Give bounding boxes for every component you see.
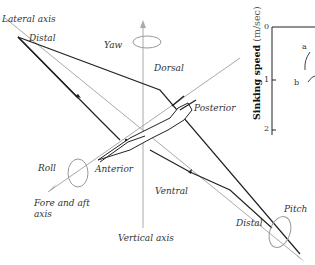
roll-rotation-icon bbox=[68, 159, 88, 187]
label-roll: Roll bbox=[38, 163, 56, 173]
tick-1: 1 bbox=[264, 75, 269, 84]
curve-label-b: b bbox=[294, 78, 299, 87]
chart-y-label-unit: (m/sec) bbox=[251, 6, 262, 41]
tick-0: 0 bbox=[264, 22, 269, 31]
curve-a bbox=[305, 52, 310, 70]
label-ventral: Ventral bbox=[155, 186, 188, 196]
label-pitch: Pitch bbox=[284, 204, 307, 214]
diagram-canvas: Lateral axis Distal Yaw Dorsal Posterior… bbox=[0, 0, 315, 265]
fore-aft-axis-line bbox=[48, 58, 240, 192]
vertical-axis-arrow-icon bbox=[140, 20, 146, 28]
label-fore-aft-axis-2: axis bbox=[34, 209, 52, 219]
label-dorsal: Dorsal bbox=[154, 63, 184, 73]
label-anterior: Anterior bbox=[95, 164, 133, 174]
label-vertical-axis: Vertical axis bbox=[118, 233, 174, 243]
yaw-rotation-icon bbox=[133, 36, 161, 48]
chart-y-label: Sinking speed (m/sec) bbox=[251, 6, 262, 120]
tick-2: 2 bbox=[264, 124, 269, 133]
curve-label-a: a bbox=[302, 42, 307, 51]
label-distal-left: Distal bbox=[29, 33, 56, 43]
label-lateral-axis: Lateral axis bbox=[2, 14, 56, 24]
curve-b bbox=[308, 76, 315, 82]
label-posterior: Posterior bbox=[194, 103, 236, 113]
label-fore-aft-axis-1: Fore and aft bbox=[34, 198, 90, 208]
chart-y-label-main: Sinking speed bbox=[251, 45, 262, 120]
label-yaw: Yaw bbox=[104, 40, 122, 50]
label-distal-right: Distal bbox=[236, 218, 263, 228]
